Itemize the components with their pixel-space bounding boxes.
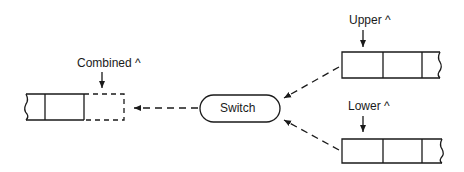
combined-label: Combined ^	[77, 56, 141, 70]
combined-list-box	[25, 94, 124, 120]
break-edge-icon	[440, 139, 443, 163]
break-edge-icon	[438, 52, 441, 78]
lower-label: Lower ^	[348, 99, 390, 113]
upper-label: Upper ^	[349, 13, 391, 27]
diagram-canvas	[0, 0, 464, 172]
dashed-new-cell	[84, 94, 124, 120]
lower-list-box	[342, 139, 443, 163]
lower-to-switch-arrow	[284, 120, 339, 150]
break-edge-icon	[25, 94, 28, 120]
switch-label: Switch	[220, 101, 255, 115]
upper-to-switch-arrow	[284, 67, 339, 98]
upper-list-box	[342, 52, 441, 78]
